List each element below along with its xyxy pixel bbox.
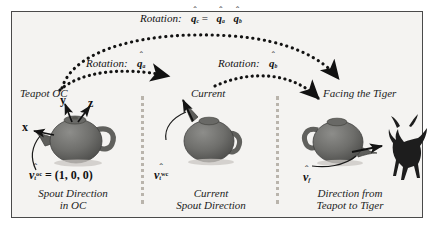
quaternion-b: ˆqb: [269, 57, 277, 69]
subscript-a2: a: [222, 18, 225, 24]
rotation-a-label: Rotation: ˆqa: [86, 57, 145, 69]
panel-right-caption-line2: Teapot to Tiger: [288, 200, 412, 212]
vector-right-symbol: ˆvf: [303, 170, 310, 185]
rotation-b-prefix: Rotation:: [218, 57, 260, 69]
vector-right-sub: f: [308, 176, 310, 183]
rotation-composite-prefix: Rotation:: [140, 12, 182, 24]
quaternion-a-composite: ˆqa: [217, 12, 225, 24]
hat-accent-v-right: ˆ: [305, 164, 308, 175]
panel-separator-1: [141, 96, 147, 204]
panel-left-caption-line2: in OC: [14, 200, 132, 212]
hat-accent-c: ˆ: [194, 6, 197, 16]
vector-left-symbol: ˆvtoc: [29, 168, 42, 183]
panel-separator-2: [276, 96, 282, 204]
subscript-c: c: [197, 18, 200, 24]
equals-sign: =: [202, 12, 208, 24]
hat-accent-a: ˆ: [140, 51, 143, 61]
subscript-b: b: [275, 63, 278, 69]
axis-label-y: y: [60, 93, 66, 108]
panel-middle-caption-line2: Spout Direction: [152, 200, 270, 212]
axis-label-z: z: [88, 96, 93, 111]
hat-accent-b: ˆ: [272, 51, 275, 61]
hat-accent-b2: ˆ: [236, 6, 239, 16]
hat-accent-v-middle: ˆ: [159, 162, 162, 173]
panel-left-caption: Spout Direction in OC: [14, 188, 132, 212]
hat-accent-a2: ˆ: [219, 6, 222, 16]
panel-middle-heading: Current: [191, 88, 225, 100]
subscript-b2: b: [239, 18, 242, 24]
panel-right-caption: Direction from Teapot to Tiger: [288, 188, 412, 212]
quaternion-a: ˆqa: [137, 57, 145, 69]
vector-left-value: = (1, 0, 0): [45, 168, 93, 182]
figure-root: Rotation: ˆqc = ˆqa ˆqb Rotation: ˆqa Ro…: [0, 0, 434, 232]
panel-right-heading: Facing the Tiger: [323, 88, 396, 100]
vector-left-expression: ˆvtoc = (1, 0, 0): [29, 168, 93, 183]
hat-accent-v-left: ˆ: [34, 162, 37, 173]
rotation-a-prefix: Rotation:: [86, 57, 128, 69]
panel-middle-caption: Current Spout Direction: [152, 188, 270, 212]
rotation-composite-label: Rotation: ˆqc = ˆqa ˆqb: [140, 12, 242, 24]
vector-middle-expression: ˆvtwc: [154, 168, 168, 183]
vector-right-expression: ˆvf: [303, 170, 310, 185]
quaternion-c: ˆqc: [191, 12, 199, 24]
axis-label-x: x: [22, 120, 28, 135]
rotation-b-label: Rotation: ˆqb: [218, 57, 277, 69]
vector-middle-symbol: ˆvtwc: [154, 168, 168, 183]
subscript-a: a: [143, 63, 146, 69]
quaternion-b-composite: ˆqb: [233, 12, 241, 24]
